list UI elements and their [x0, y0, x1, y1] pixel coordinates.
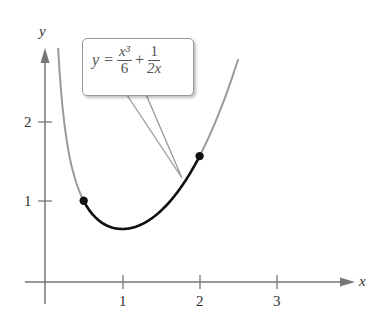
callout-pointer [125, 92, 182, 178]
eq-plus: + [135, 51, 144, 69]
y-tick-label-1: 1 [24, 194, 32, 209]
equation-text: y = x³ 6 + 1 2x [92, 44, 161, 77]
x-tick-label-3: 3 [273, 294, 281, 309]
eq-frac2-den: 2x [147, 61, 161, 77]
y-tick-label-2: 2 [24, 115, 32, 130]
eq-fraction-1: x³ 6 [117, 44, 132, 77]
eq-frac2-num: 1 [148, 44, 160, 61]
x-axis-arrow-icon [340, 278, 355, 287]
eq-lhs: y = [92, 51, 114, 69]
eq-frac1-num: x³ [117, 44, 132, 61]
x-axis-label: x [359, 274, 366, 289]
point-left [80, 197, 88, 205]
x-tick-label-1: 1 [119, 294, 127, 309]
function-arc-highlighted [84, 156, 200, 229]
point-right [195, 152, 203, 160]
y-axis-arrow-icon [41, 48, 50, 63]
y-axis-label: y [39, 24, 46, 39]
eq-frac1-den: 6 [121, 61, 129, 77]
x-tick-label-2: 2 [196, 294, 204, 309]
eq-fraction-2: 1 2x [147, 44, 161, 77]
